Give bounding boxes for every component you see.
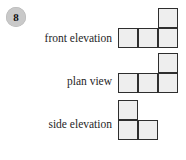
grid-cell-empty bbox=[118, 8, 138, 28]
grid-cell-filled bbox=[118, 28, 138, 48]
grid-cell-filled bbox=[158, 28, 178, 48]
view-row-side-elevation: side elevation bbox=[0, 96, 186, 140]
label-side-elevation: side elevation bbox=[2, 118, 112, 131]
grid-cell-empty bbox=[138, 53, 158, 73]
view-row-front-elevation: front elevation bbox=[0, 5, 186, 49]
grid-cell-filled bbox=[138, 28, 158, 48]
grid-cell-filled bbox=[158, 53, 178, 73]
grid-cell-filled bbox=[158, 8, 178, 28]
label-front-elevation: front elevation bbox=[2, 32, 112, 45]
grid-cell-filled bbox=[138, 120, 158, 140]
grid-cell-empty bbox=[118, 53, 138, 73]
grid-cell-filled bbox=[118, 73, 138, 93]
shape-front-elevation bbox=[119, 9, 179, 49]
grid-cell-filled bbox=[138, 73, 158, 93]
grid-cell-empty bbox=[138, 100, 158, 120]
view-row-plan-view: plan view bbox=[0, 50, 186, 94]
grid-cell-filled bbox=[118, 100, 138, 120]
shape-side-elevation bbox=[119, 101, 159, 141]
grid-cell-empty bbox=[138, 8, 158, 28]
shape-plan-view bbox=[119, 54, 179, 94]
grid-cell-filled bbox=[158, 73, 178, 93]
label-plan-view: plan view bbox=[2, 75, 112, 88]
grid-cell-filled bbox=[118, 120, 138, 140]
